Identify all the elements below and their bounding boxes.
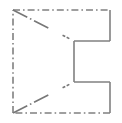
figure-background — [0, 0, 122, 123]
geometric-figure-svg — [0, 0, 122, 123]
figure-canvas — [0, 0, 122, 123]
